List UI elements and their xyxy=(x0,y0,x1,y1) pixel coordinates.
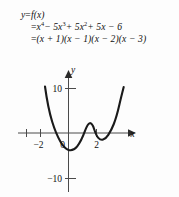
equation-line-2: =x4− 5x3+ 5x2+ 5x − 6 xyxy=(31,22,122,32)
x-tick-label-minus2: −2 xyxy=(33,140,43,150)
x-axis-label: x xyxy=(130,129,136,139)
x-tick-label-2: 2 xyxy=(94,140,99,150)
x-tick-label-0: 0 xyxy=(60,140,65,150)
y-axis-label: y xyxy=(70,65,76,75)
figure-container: y=f(x) =x4− 5x3+ 5x2+ 5x − 6 =(x + 1)(x … xyxy=(0,0,179,197)
equation-rhs-fx: f(x) xyxy=(31,9,45,20)
y-tick-label-minus10: −10 xyxy=(47,174,62,184)
equation-term-5x2: + 5x xyxy=(66,21,84,32)
equation-block: y=f(x) =x4− 5x3+ 5x2+ 5x − 6 =(x + 1)(x … xyxy=(0,0,179,52)
equation-line-1: y=f(x) xyxy=(21,10,45,20)
equation-term-5x-6: + 5x − 6 xyxy=(87,21,122,32)
equation-term-5x3: − 5x xyxy=(44,21,62,32)
y-tick-label-10: 10 xyxy=(53,84,63,94)
function-curve xyxy=(45,87,124,151)
equation-factored-form: (x + 1)(x − 1)(x − 2)(x − 3) xyxy=(37,33,147,44)
equation-line-3: =(x + 1)(x − 1)(x − 2)(x − 3) xyxy=(31,34,146,44)
graph-area: x y −2 0 2 10 −10 xyxy=(0,50,179,197)
